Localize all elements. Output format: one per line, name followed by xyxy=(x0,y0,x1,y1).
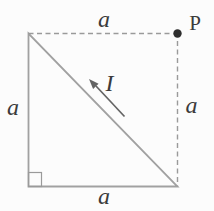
label-current: I xyxy=(105,70,115,96)
diagram-canvas: a a a a I P xyxy=(0,0,214,211)
right-angle-marker-icon xyxy=(29,173,42,187)
label-side-top: a xyxy=(98,6,110,32)
label-point-p: P xyxy=(189,11,201,35)
label-side-right: a xyxy=(186,92,198,118)
label-side-bottom: a xyxy=(98,183,110,209)
triangle-current-diagram: a a a a I P xyxy=(0,0,214,211)
triangle-outline xyxy=(29,34,178,187)
label-side-left: a xyxy=(7,94,19,120)
point-p-dot xyxy=(173,29,181,37)
